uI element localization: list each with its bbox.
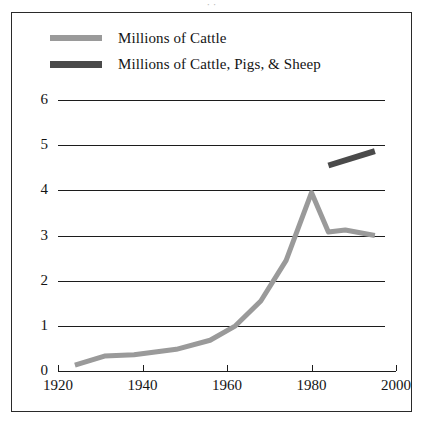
- series-line-cattle-pigs-sheep: [328, 151, 374, 165]
- plot-area: 0123456 19201940196019802000: [0, 0, 423, 424]
- series-line-cattle: [75, 193, 375, 366]
- chart-figure: · · Millions of Cattle Millions of Cattl…: [0, 0, 423, 424]
- data-series-layer: [0, 0, 423, 424]
